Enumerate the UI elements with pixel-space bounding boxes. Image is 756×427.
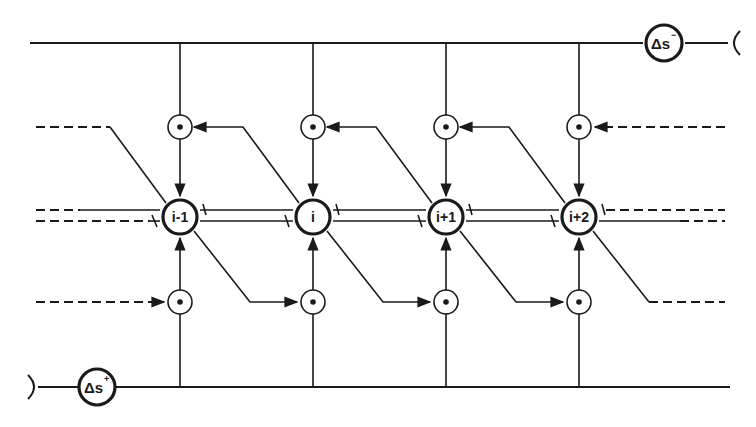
svg-text:Δs: Δs bbox=[651, 35, 670, 52]
delta-s-plus-badge: Δs + bbox=[79, 369, 115, 405]
svg-text:−: − bbox=[671, 30, 676, 40]
delta-s-minus-badge: Δs − bbox=[646, 25, 682, 61]
diagonal-links-upper bbox=[36, 127, 725, 203]
node-i-plus-2: i+2 bbox=[562, 200, 596, 234]
svg-text:+: + bbox=[104, 374, 109, 384]
stencil-diagram: Δs − Δs + bbox=[0, 0, 756, 427]
svg-text:i+2: i+2 bbox=[569, 209, 589, 225]
top-rail bbox=[30, 31, 740, 55]
node-i-plus-1: i+1 bbox=[429, 200, 463, 234]
svg-text:Δs: Δs bbox=[84, 379, 103, 396]
horizontal-double-links bbox=[36, 204, 725, 227]
vertical-connectors bbox=[180, 43, 579, 387]
svg-text:i+1: i+1 bbox=[436, 209, 456, 225]
svg-text:i-1: i-1 bbox=[172, 209, 189, 225]
node-i: i bbox=[296, 200, 330, 234]
svg-text:i: i bbox=[311, 209, 315, 225]
bottom-rail bbox=[28, 375, 730, 399]
diagonal-links-lower bbox=[36, 231, 725, 302]
node-i-minus-1: i-1 bbox=[163, 200, 197, 234]
